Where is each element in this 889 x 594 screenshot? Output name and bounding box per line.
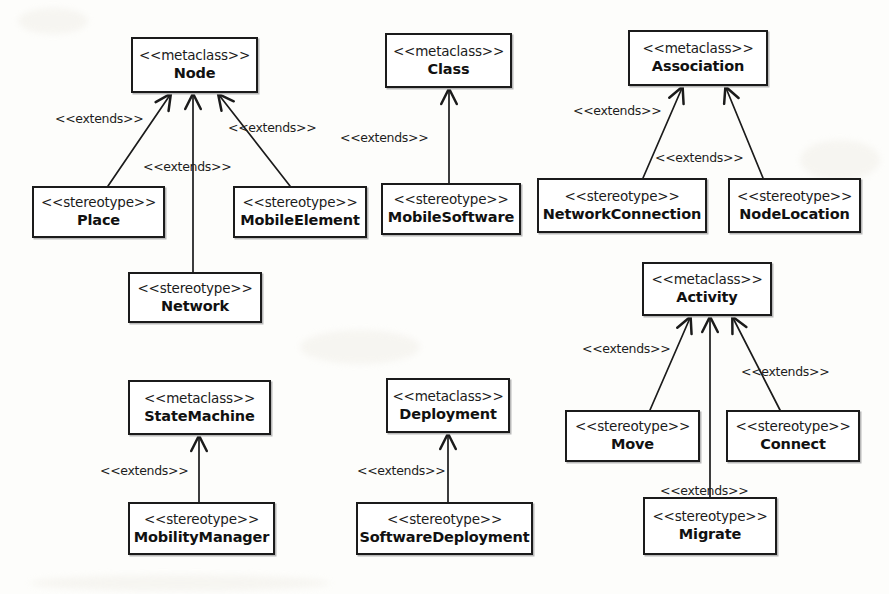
extends-label-network: <<extends>> — [143, 159, 231, 174]
box-name-label: Place — [77, 212, 120, 228]
box-kind-label: <<metaclass>> — [392, 389, 503, 404]
box-name-label: Activity — [676, 289, 737, 305]
uml-box-move[interactable]: <<stereotype>>Move — [565, 410, 700, 462]
uml-box-nodelocation[interactable]: <<stereotype>>NodeLocation — [728, 178, 861, 233]
box-name-label: NetworkConnection — [543, 206, 701, 222]
uml-profile-diagram: <<metaclass>>Node<<stereotype>>Place<<st… — [0, 0, 889, 594]
box-name-label: Move — [611, 436, 654, 452]
box-name-label: Class — [428, 61, 470, 77]
scan-artifact — [30, 575, 330, 591]
extends-label-mobilesoftware: <<extends>> — [340, 130, 428, 145]
uml-box-statemachine[interactable]: <<metaclass>>StateMachine — [128, 380, 271, 435]
uml-box-deployment[interactable]: <<metaclass>>Deployment — [386, 378, 510, 433]
box-kind-label: <<stereotype>> — [564, 189, 679, 204]
box-name-label: Migrate — [679, 526, 741, 542]
uml-box-mobileelement[interactable]: <<stereotype>>MobileElement — [233, 186, 367, 238]
box-name-label: Association — [652, 58, 744, 74]
box-kind-label: <<stereotype>> — [737, 189, 852, 204]
box-kind-label: <<stereotype>> — [144, 512, 259, 527]
extends-label-nodelocation: <<extends>> — [655, 150, 743, 165]
uml-box-networkconnection[interactable]: <<stereotype>>NetworkConnection — [537, 178, 707, 233]
box-name-label: MobilityManager — [134, 529, 270, 545]
box-kind-label: <<stereotype>> — [137, 281, 252, 296]
uml-box-migrate[interactable]: <<stereotype>>Migrate — [643, 497, 777, 555]
box-name-label: StateMachine — [144, 408, 254, 424]
extends-label-softwaredeployment: <<extends>> — [357, 463, 445, 478]
extends-label-move: <<extends>> — [582, 341, 670, 356]
box-kind-label: <<metaclass>> — [651, 272, 762, 287]
extends-label-mobileelement: <<extends>> — [228, 120, 316, 135]
uml-box-class[interactable]: <<metaclass>>Class — [385, 33, 512, 88]
box-kind-label: <<metaclass>> — [139, 48, 250, 63]
box-name-label: SoftwareDeployment — [360, 529, 530, 545]
box-kind-label: <<stereotype>> — [735, 419, 850, 434]
extends-label-migrate: <<extends>> — [660, 483, 748, 498]
uml-box-network[interactable]: <<stereotype>>Network — [128, 272, 262, 323]
uml-box-association[interactable]: <<metaclass>>Association — [628, 30, 768, 86]
box-name-label: Network — [161, 298, 229, 314]
uml-box-node[interactable]: <<metaclass>>Node — [131, 37, 258, 93]
uml-box-softwaredeployment[interactable]: <<stereotype>>SoftwareDeployment — [356, 502, 533, 555]
box-kind-label: <<stereotype>> — [652, 509, 767, 524]
extends-edge-move-to-activity — [650, 318, 690, 410]
extends-label-connect: <<extends>> — [741, 364, 829, 379]
scan-artifact — [18, 8, 88, 34]
box-name-label: NodeLocation — [739, 206, 849, 222]
box-kind-label: <<stereotype>> — [387, 512, 502, 527]
extends-label-mobilitymanager: <<extends>> — [100, 463, 188, 478]
box-name-label: Connect — [760, 436, 826, 452]
box-kind-label: <<stereotype>> — [41, 195, 156, 210]
box-kind-label: <<stereotype>> — [242, 195, 357, 210]
box-name-label: Deployment — [399, 406, 496, 422]
box-kind-label: <<metaclass>> — [144, 391, 255, 406]
box-kind-label: <<metaclass>> — [642, 41, 753, 56]
box-name-label: MobileElement — [240, 212, 360, 228]
box-name-label: MobileSoftware — [388, 209, 514, 225]
scan-artifact — [300, 330, 420, 364]
uml-box-connect[interactable]: <<stereotype>>Connect — [726, 410, 860, 462]
box-name-label: Node — [174, 65, 216, 81]
box-kind-label: <<stereotype>> — [575, 419, 690, 434]
scan-artifact — [800, 140, 880, 180]
box-kind-label: <<stereotype>> — [393, 192, 508, 207]
uml-box-activity[interactable]: <<metaclass>>Activity — [642, 262, 772, 316]
extends-label-place: <<extends>> — [55, 111, 143, 126]
box-kind-label: <<metaclass>> — [393, 44, 504, 59]
uml-box-place[interactable]: <<stereotype>>Place — [32, 186, 165, 238]
uml-box-mobilitymanager[interactable]: <<stereotype>>MobilityManager — [128, 502, 275, 555]
extends-label-networkconnection: <<extends>> — [573, 103, 661, 118]
uml-box-mobilesoftware[interactable]: <<stereotype>>MobileSoftware — [381, 183, 521, 235]
